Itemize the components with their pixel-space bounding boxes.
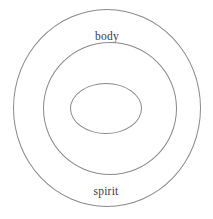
circle-inner-spirit: spirit <box>70 83 142 134</box>
circle-label-spirit: spirit <box>71 185 141 198</box>
concentric-circles-diagram: body soul spirit <box>0 0 213 219</box>
